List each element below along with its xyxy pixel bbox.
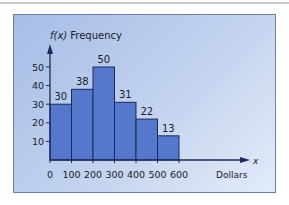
x-tick-label: 600 [170,169,188,180]
x-tick-label: 100 [62,169,80,180]
y-tick-label: 40 [32,80,44,91]
histogram-bar [72,89,94,160]
x-tick-label: 400 [127,169,145,180]
bar-value-label: 22 [140,106,153,117]
x-axis-arrow-icon [240,157,250,163]
y-tick-label: 20 [32,117,44,128]
bar-value-label: 30 [54,91,67,102]
y-tick-label: 30 [32,99,44,110]
bar-value-label: 31 [119,89,132,100]
y-axis-title: f(x)Frequency [50,30,122,41]
y-tick-label: 10 [32,136,44,147]
histogram-bar [158,136,180,160]
bar-value-label: 50 [97,54,110,65]
x-tick-label: 0 [47,169,53,180]
y-ticks: 1020304050 [32,62,50,147]
x-tick-label: 200 [84,169,102,180]
x-tick-label: 300 [105,169,123,180]
x-ticks: 0100200300400500600 [47,160,188,180]
histogram-bar [93,67,115,160]
x-axis-variable: x [252,156,259,166]
histogram-chart: 1020304050 0100200300400500600 303850312… [0,0,289,205]
y-axis-arrow-icon [47,44,53,54]
x-tick-label: 500 [148,169,166,180]
histogram-bar [136,119,158,160]
bars-group [50,67,179,160]
x-axis-title: Dollars [216,170,248,180]
histogram-bar [50,104,72,160]
bar-value-label: 13 [162,123,175,134]
histogram-bar [115,102,137,160]
bar-value-label: 38 [76,76,89,87]
y-tick-label: 50 [32,62,44,73]
